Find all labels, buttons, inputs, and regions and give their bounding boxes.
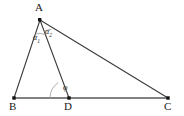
- vertex-label-c: C: [164, 101, 171, 112]
- geometry-canvas: [0, 0, 184, 116]
- vertex-label-b: B: [9, 101, 16, 112]
- vertex-label-a: A: [35, 2, 43, 13]
- vertex-marker-a: [38, 18, 41, 21]
- angle-symbol-phi: φ: [63, 83, 67, 92]
- angle-subscript-alpha1: 1: [37, 38, 40, 44]
- angle-arc-phi: [50, 83, 58, 98]
- segment-ab: [14, 20, 40, 98]
- vertex-label-d: D: [64, 101, 72, 112]
- angle-label-phi: φ: [63, 84, 67, 92]
- segment-ac: [40, 20, 168, 98]
- angle-label-alpha2: α2: [45, 28, 52, 38]
- geometry-figure: A B D C α1 α2 φ: [0, 0, 184, 116]
- angle-subscript-alpha2: 2: [49, 32, 52, 38]
- angle-label-alpha1: α1: [33, 34, 40, 44]
